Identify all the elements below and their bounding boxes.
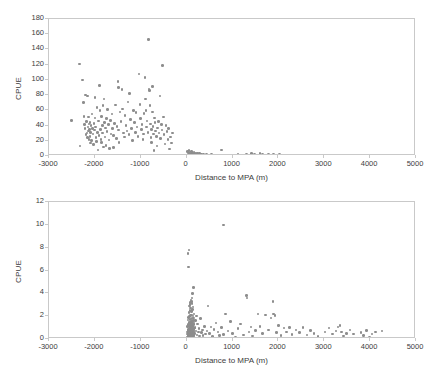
data-point (99, 109, 102, 112)
data-point (277, 324, 280, 327)
data-point (149, 104, 152, 107)
data-point (195, 315, 198, 318)
data-point (198, 335, 201, 337)
data-point (117, 80, 120, 83)
data-point (313, 332, 316, 335)
data-point (139, 117, 142, 120)
data-point (374, 331, 377, 334)
data-point (92, 143, 95, 146)
data-point (163, 133, 166, 136)
y-tick-mark (45, 315, 48, 316)
data-point (152, 125, 155, 128)
data-point (128, 92, 131, 95)
x-tick-label: -3000 (26, 160, 70, 168)
data-point (251, 335, 254, 337)
data-point (134, 131, 137, 134)
data-point (91, 113, 94, 116)
y-tick-label: 120 (18, 60, 44, 68)
x-tick-mark (415, 338, 416, 341)
x-tick-label: 1000 (210, 160, 254, 168)
data-point (122, 132, 125, 135)
data-point (248, 331, 251, 334)
data-points-bottom (49, 202, 414, 337)
data-point (191, 292, 194, 295)
data-point (306, 334, 309, 337)
data-point (257, 313, 260, 316)
data-point (147, 131, 150, 134)
plot-area-bottom (48, 201, 415, 338)
data-point (105, 117, 108, 120)
y-tick-mark (45, 292, 48, 293)
data-point (365, 329, 368, 332)
data-point (151, 85, 154, 88)
y-tick-label: 60 (18, 105, 44, 113)
data-point (95, 136, 98, 139)
data-point (254, 329, 257, 332)
data-point (87, 116, 90, 119)
data-point (362, 334, 365, 337)
x-tick-label: -2000 (72, 343, 116, 351)
data-point (112, 146, 115, 149)
data-point (261, 332, 264, 335)
data-point (246, 297, 249, 300)
data-point (150, 136, 153, 139)
y-tick-label: 12 (18, 197, 44, 205)
x-tick-label: 2000 (255, 160, 299, 168)
data-point (93, 122, 96, 125)
x-tick-label: 4000 (347, 160, 391, 168)
data-point (218, 334, 221, 337)
data-point (222, 224, 225, 227)
data-point (340, 331, 343, 334)
data-point (239, 323, 242, 326)
data-point (131, 139, 134, 142)
y-tick-label: 100 (18, 75, 44, 83)
x-tick-mark (369, 155, 370, 158)
data-point (101, 124, 104, 127)
data-points-top (49, 19, 414, 154)
data-point (161, 129, 164, 132)
data-point (242, 334, 245, 337)
x-tick-label: 0 (164, 343, 208, 351)
data-point (283, 327, 286, 330)
data-point (208, 332, 211, 335)
data-point (104, 136, 107, 139)
data-point (118, 141, 121, 144)
data-point (140, 128, 143, 131)
data-point (169, 136, 172, 139)
y-tick-mark (45, 33, 48, 34)
x-tick-mark (140, 338, 141, 341)
data-point (143, 112, 146, 115)
data-point (210, 326, 213, 329)
y-tick-label: 0 (18, 334, 44, 342)
x-tick-mark (186, 155, 187, 158)
y-tick-label: 160 (18, 29, 44, 37)
data-point (220, 326, 223, 329)
data-point (78, 63, 81, 66)
x-tick-mark (48, 338, 49, 341)
chart-panel-top: CPUE 020406080100120140160180 -3000-2000… (0, 0, 430, 186)
data-point (83, 115, 86, 118)
data-point (148, 89, 151, 92)
data-point (84, 127, 87, 130)
data-point (220, 149, 223, 152)
data-point (187, 252, 190, 255)
data-point (94, 126, 97, 129)
data-point (259, 325, 262, 328)
data-point (339, 324, 342, 327)
data-point (352, 333, 355, 336)
data-point (147, 38, 150, 41)
x-tick-label: -1000 (118, 160, 162, 168)
y-tick-mark (45, 18, 48, 19)
data-point (145, 109, 148, 112)
data-point (117, 129, 120, 132)
y-tick-label: 40 (18, 121, 44, 129)
data-point (153, 149, 156, 152)
data-point (130, 127, 133, 130)
data-point (280, 334, 283, 337)
data-point (264, 314, 267, 317)
data-point (371, 333, 374, 336)
data-point (167, 138, 170, 141)
data-point (100, 115, 103, 118)
data-point (275, 331, 278, 334)
data-point (144, 98, 147, 101)
